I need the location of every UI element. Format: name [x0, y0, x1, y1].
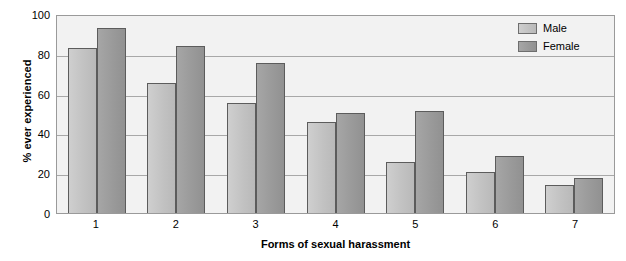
bar-female [415, 111, 444, 213]
x-tick-label: 7 [535, 216, 615, 232]
y-tick-label: 80 [24, 50, 50, 60]
x-axis-title: Forms of sexual harassment [56, 238, 615, 250]
x-tick-label: 3 [216, 216, 296, 232]
bar-female [574, 178, 603, 213]
bar-male [466, 172, 495, 213]
x-tick-label: 4 [296, 216, 376, 232]
bar-group [296, 16, 376, 213]
bar-female [495, 156, 524, 213]
x-tick-label: 5 [375, 216, 455, 232]
bar-female [256, 63, 285, 213]
legend-item-male: Male [518, 20, 610, 36]
bar-group [57, 16, 137, 213]
legend-label: Female [543, 40, 580, 52]
bar-female [176, 46, 205, 213]
x-tick-label: 1 [56, 216, 136, 232]
x-axis-tick-labels: 1 2 3 4 5 6 7 [56, 216, 615, 232]
bar-male [386, 162, 415, 213]
legend-swatch-icon [518, 41, 537, 52]
bar-male [147, 83, 176, 213]
bar-male [68, 48, 97, 213]
x-tick-label: 2 [136, 216, 216, 232]
y-tick-label: 40 [24, 129, 50, 139]
legend-swatch-icon [518, 23, 537, 34]
bar-female [97, 28, 126, 213]
bar-male [545, 185, 574, 213]
bar-group [137, 16, 217, 213]
bar-male [227, 103, 256, 213]
bar-group [375, 16, 455, 213]
bar-group [216, 16, 296, 213]
y-tick-label: 100 [24, 10, 50, 20]
bar-male [307, 122, 336, 213]
bar-chart-figure: % ever experienced 100 80 60 40 20 0 [0, 0, 626, 261]
y-tick-label: 20 [24, 169, 50, 179]
y-axis-tick-labels: 100 80 60 40 20 0 [22, 0, 50, 261]
x-tick-label: 6 [455, 216, 535, 232]
legend-item-female: Female [518, 38, 610, 54]
legend: Male Female [518, 20, 610, 56]
legend-label: Male [543, 22, 567, 34]
y-tick-label: 60 [24, 90, 50, 100]
bar-female [336, 113, 365, 213]
y-tick-label: 0 [24, 209, 50, 219]
